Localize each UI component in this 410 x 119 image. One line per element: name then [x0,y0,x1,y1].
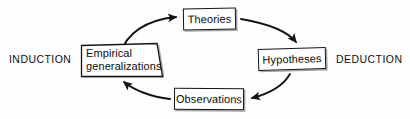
node-empirical-generalizations: Empirical generalizations [80,42,164,78]
node-theories: Theories [183,8,236,31]
arrow-theories-to-hypotheses [241,19,296,42]
label-induction: INDUCTION [9,53,71,65]
node-observations: Observations [174,88,244,110]
label-deduction: DEDUCTION [336,53,402,65]
arrow-hypotheses-to-observations [252,74,290,98]
arrow-observations-to-empirical [124,82,170,99]
node-empirical-generalizations-label-line2: generalizations [86,60,162,74]
node-observations-label: Observations [176,93,242,105]
node-theories-label: Theories [188,13,232,26]
wheel-of-science-diagram: Theories Hypotheses Observations Empiric… [0,0,410,119]
node-empirical-generalizations-label-line1: Empirical [86,47,132,61]
node-hypotheses: Hypotheses [258,47,327,71]
node-hypotheses-label: Hypotheses [262,52,321,66]
